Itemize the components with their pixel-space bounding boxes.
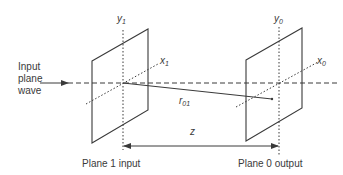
plane-0-caption: Plane 0 output — [238, 158, 303, 169]
input-label-line-1: Input — [18, 61, 40, 72]
plane-0-x-axis — [236, 62, 318, 107]
input-label-line-2: plane — [18, 73, 43, 84]
plane-1 — [86, 29, 158, 150]
distance-z-label: z — [189, 126, 195, 137]
ray-r01 — [123, 83, 272, 99]
plane-0 — [236, 27, 318, 155]
plane-1-x-axis-label: x1 — [159, 55, 169, 67]
ray-r01-label: r01 — [179, 95, 190, 107]
ray-r01-endpoint — [271, 98, 273, 100]
plane-1-x-axis — [86, 64, 158, 104]
plane-1-caption: Plane 1 input — [82, 158, 141, 169]
plane-1-y-axis-label: y1 — [116, 13, 126, 25]
plane-0-y-axis-label: y0 — [273, 13, 283, 25]
input-label-line-3: wave — [17, 85, 42, 96]
plane-0-x-axis-label: x0 — [316, 55, 326, 67]
diffraction-geometry-diagram: Input plane wave y1 x1 y0 x0 r01 z Plane… — [0, 0, 343, 175]
